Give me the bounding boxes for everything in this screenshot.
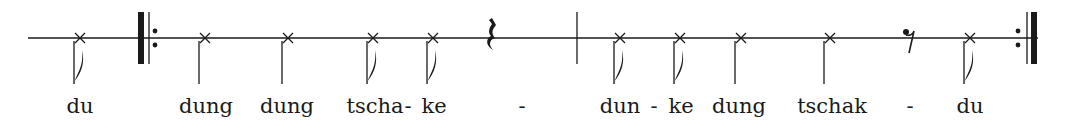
eighth-note-5 [427, 33, 438, 84]
lyric-hyphen: - [518, 94, 525, 118]
lyric-syllable: tschak [797, 94, 867, 118]
thick-bar [1031, 12, 1037, 64]
quarter-note-11 [824, 33, 835, 84]
quarter-rest-6 [487, 18, 496, 50]
lyric-syllable: dung [179, 94, 233, 118]
flag-icon [964, 50, 973, 84]
lyric-syllable: dung [712, 94, 766, 118]
quarter-rest-icon [487, 18, 496, 50]
flag-icon [427, 50, 436, 84]
quarter-note-10 [735, 33, 746, 84]
eighth-note-8 [614, 33, 625, 84]
eighth-note-13 [964, 33, 975, 84]
lyric-syllable: du [957, 94, 984, 118]
flag-icon [614, 50, 623, 84]
repeat-dot [153, 43, 158, 48]
flag-icon [367, 50, 376, 84]
repeat-dot [153, 29, 158, 34]
lyric-hyphen: - [906, 94, 913, 118]
lyric-hyphen: - [650, 94, 657, 118]
eighth-note-0 [74, 33, 85, 84]
flag-icon [74, 50, 83, 84]
thick-bar [138, 12, 144, 64]
lyric-syllable: du [67, 94, 94, 118]
repeat-dot [1016, 29, 1021, 34]
eighth-note-9 [674, 33, 685, 84]
lyric-syllable: ke [668, 94, 693, 118]
lyric-hyphen: - [404, 94, 411, 118]
rest-dot [903, 29, 909, 35]
eighth-rest-12 [903, 29, 914, 53]
quarter-note-3 [282, 33, 293, 84]
lyric-syllable: ke [421, 94, 446, 118]
lyric-syllable: dung [260, 94, 314, 118]
flag-icon [674, 50, 683, 84]
lyric-syllable: tscha [346, 94, 403, 118]
eighth-note-4 [367, 33, 378, 84]
quarter-note-2 [199, 33, 210, 84]
repeat-dot [1016, 43, 1021, 48]
lyric-syllable: dun [600, 94, 641, 118]
